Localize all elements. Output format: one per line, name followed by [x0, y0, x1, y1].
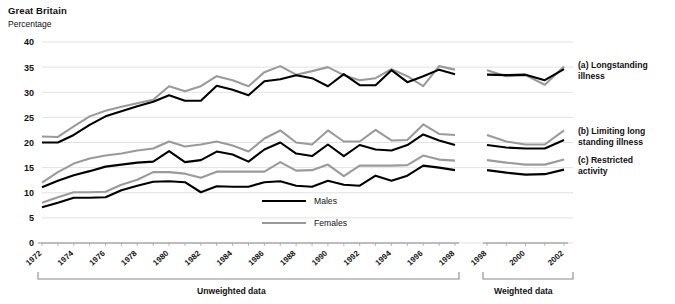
- series-label-a-line1: (a) Longstanding: [578, 60, 648, 70]
- y-tick-label: 35: [24, 63, 34, 73]
- x-tick-label: 1992: [342, 248, 362, 267]
- data-line-c-females: [487, 160, 564, 165]
- x-axis-ticklabels: 1972197419761978198019821984198619881990…: [24, 248, 566, 267]
- data-line-a-males: [42, 70, 455, 143]
- y-tick-label: 15: [24, 163, 34, 173]
- data-line-c-males: [487, 170, 564, 175]
- x-tick-label: 1976: [88, 248, 108, 267]
- series-label-limiting-longstanding-illness: (b) Limiting long standing illness: [578, 126, 675, 148]
- x-tick-label: 2002: [546, 248, 566, 267]
- x-tick-label: 1984: [215, 248, 235, 267]
- x-axis-group: [38, 243, 568, 246]
- data-line-a-females: [42, 66, 455, 137]
- panel-brace-weighted: [483, 272, 573, 279]
- x-tick-label: 1972: [24, 248, 44, 267]
- y-tick-label: 25: [24, 113, 34, 123]
- series-label-c-line1: (c) Restricted: [578, 155, 633, 165]
- y-tick-label: 40: [24, 37, 34, 47]
- footer-label-unweighted: Unweighted data: [197, 286, 266, 296]
- x-tick-label: 1980: [151, 248, 171, 267]
- x-tick-label: 1974: [56, 248, 76, 267]
- x-tick-label: 1986: [246, 248, 266, 267]
- legend-label-females: Females: [314, 218, 347, 228]
- x-tick-label: 1998: [469, 248, 489, 267]
- x-tick-label: 1990: [310, 248, 330, 267]
- panel-brace-unweighted: [38, 272, 459, 279]
- y-tick-label: 5: [29, 213, 34, 223]
- legend-label-males: Males: [314, 196, 337, 206]
- x-tick-label: 1996: [405, 248, 425, 267]
- y-axis-ticklabels: 0510152025303540: [24, 37, 34, 248]
- x-tick-label: 1978: [119, 248, 139, 267]
- data-line-b-females: [42, 124, 455, 182]
- series-label-restricted-activity: (c) Restricted activity: [578, 155, 675, 177]
- x-tick-label: 1982: [183, 248, 203, 267]
- chart-container: Great Britain Percentage 051015202530354…: [0, 0, 675, 304]
- series-label-c-line2: activity: [578, 166, 608, 176]
- x-tick-label: 1994: [374, 248, 394, 267]
- panel-braces-group: [38, 272, 573, 279]
- x-tick-label: 2000: [508, 248, 528, 267]
- series-label-b-line1: (b) Limiting long: [578, 126, 645, 136]
- data-lines-group: [42, 66, 564, 207]
- y-tick-label: 0: [29, 238, 34, 248]
- legend-marks-group: [262, 201, 306, 223]
- y-tick-label: 30: [24, 88, 34, 98]
- y-tick-label: 10: [24, 188, 34, 198]
- x-tick-label: 1988: [278, 248, 298, 267]
- x-tick-label: 1998: [437, 248, 457, 267]
- line-chart-plot: 0510152025303540 19721974197619781980198…: [0, 0, 675, 304]
- y-tick-label: 20: [24, 138, 34, 148]
- footer-label-weighted: Weighted data: [494, 286, 553, 296]
- series-label-longstanding-illness: (a) Longstanding illness: [578, 60, 675, 82]
- series-label-a-line2: illness: [578, 71, 605, 81]
- series-label-b-line2: standing illness: [578, 137, 643, 147]
